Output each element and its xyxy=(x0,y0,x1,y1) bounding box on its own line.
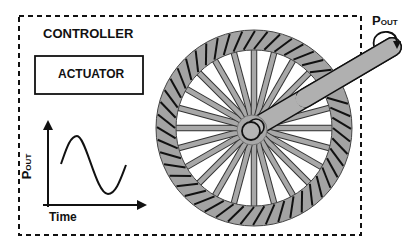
axle xyxy=(242,122,260,140)
sine-curve xyxy=(61,136,126,194)
controller-label: CONTROLLER xyxy=(43,27,133,40)
actuator-label: ACTUATOR xyxy=(58,68,124,80)
plot-ylabel-sub: OUT xyxy=(24,154,33,171)
plot-ylabel-main: P xyxy=(19,171,34,180)
output-label-sub: OUT xyxy=(381,18,398,27)
output-label: POUT xyxy=(372,14,398,27)
x-axis-arrow-icon xyxy=(137,200,147,210)
pout-time-plot xyxy=(43,120,147,210)
plot-ylabel: POUT xyxy=(20,154,33,180)
wheel xyxy=(156,30,392,226)
output-label-main: P xyxy=(372,13,381,28)
y-axis-arrow-icon xyxy=(43,120,53,130)
plot-xlabel: Time xyxy=(49,211,77,223)
